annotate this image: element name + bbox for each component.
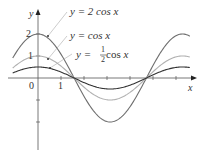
cosine-amplitude-chart: y x 0 1 2 1 y = 2 cos x y = cos x y = 1 … (0, 0, 208, 156)
label-halfcos-den: 2 (101, 55, 105, 64)
leader-2cos-dot (47, 35, 49, 37)
leader-2cos (48, 12, 67, 36)
origin-label: 0 (29, 80, 34, 91)
y-tick-label-1: 1 (28, 50, 33, 61)
label-cos-prefix: y = cos (69, 29, 105, 41)
label-2cos-var: x (112, 5, 118, 17)
label-halfcos-suffix-text: cos (106, 48, 123, 60)
leader-halfcos-dot (49, 67, 51, 69)
x-axis-arrow-icon (191, 76, 197, 81)
y-axis-arrow-icon (36, 9, 41, 15)
label-halfcos-num: 1 (101, 45, 105, 54)
label-halfcos-suffix: cos x (106, 48, 128, 60)
label-2cos-prefix: y = 2 cos (69, 5, 113, 17)
label-2cos: y = 2 cos x (69, 5, 118, 17)
label-halfcos-var: x (122, 48, 128, 60)
label-halfcos: y = 1 2 cos x (75, 45, 128, 64)
x-tick-label-1: 1 (58, 80, 63, 91)
x-axis-label: x (187, 82, 193, 93)
label-cos-var: x (104, 29, 110, 41)
label-halfcos-prefix: y = (75, 48, 91, 60)
label-cos: y = cos x (69, 29, 110, 41)
leader-cos (48, 36, 67, 59)
y-axis-label: y (28, 8, 34, 19)
leader-cos-dot (47, 58, 49, 60)
y-tick-label-2: 2 (26, 28, 31, 39)
